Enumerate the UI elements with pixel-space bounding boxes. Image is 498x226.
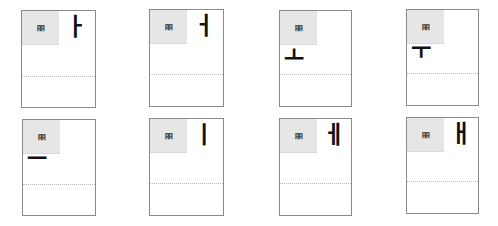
vowel-label: ㅜ bbox=[411, 40, 431, 62]
vowel-label: ㅡ bbox=[27, 148, 47, 170]
consonant-label: ㅃ bbox=[36, 22, 46, 33]
syllable-card-3: ㅃ ㅗ bbox=[279, 10, 352, 107]
dotted-divider bbox=[280, 183, 351, 184]
consonant-label: ㅃ bbox=[164, 21, 174, 32]
syllable-card-7: ㅃ ㅔ bbox=[279, 118, 352, 216]
dotted-divider bbox=[407, 73, 478, 74]
vowel-label: ㅣ bbox=[193, 123, 215, 147]
dotted-divider bbox=[150, 183, 223, 184]
syllable-card-4: ㅃ ㅜ bbox=[406, 9, 479, 106]
syllable-card-5: ㅃ ㅡ bbox=[22, 119, 96, 216]
consonant-label: ㅃ bbox=[421, 21, 431, 32]
consonant-label: ㅃ bbox=[37, 131, 47, 142]
syllable-card-6: ㅃ ㅣ bbox=[149, 118, 224, 216]
consonant-label: ㅃ bbox=[421, 129, 431, 140]
consonant-box: ㅃ bbox=[280, 119, 317, 153]
dotted-divider bbox=[150, 74, 223, 75]
syllable-card-1: ㅃ ㅏ bbox=[21, 10, 96, 108]
vowel-label: ㅐ bbox=[450, 122, 472, 146]
dotted-divider bbox=[23, 184, 95, 185]
consonant-box: ㅃ bbox=[280, 11, 317, 45]
consonant-box: ㅃ bbox=[407, 118, 444, 152]
dotted-divider bbox=[22, 76, 95, 77]
vowel-label: ㅏ bbox=[65, 15, 87, 39]
vowel-label: ㅓ bbox=[193, 14, 215, 38]
consonant-label: ㅃ bbox=[294, 130, 304, 141]
consonant-box: ㅃ bbox=[22, 11, 59, 45]
vowel-label: ㅗ bbox=[284, 45, 304, 67]
syllable-card-8: ㅃ ㅐ bbox=[406, 117, 479, 214]
vowel-label: ㅔ bbox=[323, 123, 345, 147]
consonant-label: ㅃ bbox=[294, 22, 304, 33]
consonant-label: ㅃ bbox=[164, 130, 174, 141]
dotted-divider bbox=[407, 181, 478, 182]
consonant-box: ㅃ bbox=[150, 10, 187, 44]
consonant-box: ㅃ bbox=[150, 119, 187, 153]
syllable-card-2: ㅃ ㅓ bbox=[149, 9, 224, 107]
dotted-divider bbox=[280, 74, 351, 75]
